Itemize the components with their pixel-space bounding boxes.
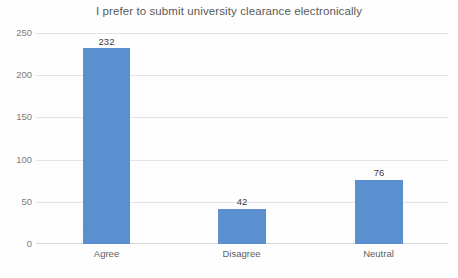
gridline-250 <box>36 33 448 34</box>
x-tick-label-neutral: Neutral <box>343 248 414 259</box>
bar-chart: I prefer to submit university clearance … <box>0 0 458 278</box>
y-axis: 250 200 150 100 50 0 <box>0 33 32 244</box>
plot-area: 232 42 76 <box>36 33 448 244</box>
y-tick-label: 50 <box>2 197 32 207</box>
y-tick-label: 0 <box>2 239 32 249</box>
x-tick-label-agree: Agree <box>71 248 142 259</box>
chart-title: I prefer to submit university clearance … <box>0 5 458 17</box>
y-tick-label: 100 <box>2 155 32 165</box>
bar-value-label-disagree: 42 <box>218 196 266 207</box>
y-tick-label: 150 <box>2 112 32 122</box>
y-tick-label: 250 <box>2 28 32 38</box>
x-axis: Agree Disagree Neutral <box>36 248 448 264</box>
bar-value-label-neutral: 76 <box>355 167 403 178</box>
x-tick-label-disagree: Disagree <box>206 248 277 259</box>
bar-value-label-agree: 232 <box>83 36 130 47</box>
bar-neutral[interactable] <box>355 180 403 244</box>
bar-agree[interactable] <box>83 48 130 244</box>
bar-disagree[interactable] <box>218 209 266 244</box>
y-tick-label: 200 <box>2 70 32 80</box>
